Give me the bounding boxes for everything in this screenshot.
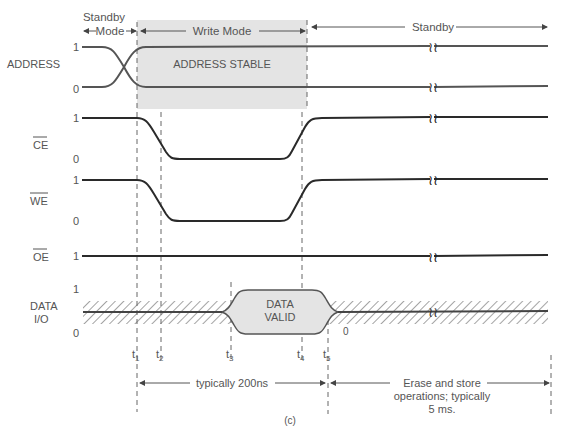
address-stable-label: ADDRESS STABLE <box>173 58 271 70</box>
t5-label: t5 <box>323 348 331 363</box>
address-level-0: 0 <box>73 83 79 95</box>
break-icon: ≀≀ <box>428 249 438 265</box>
t2-label: t2 <box>156 348 164 363</box>
break-icon: ≀≀ <box>428 110 438 126</box>
store-interval-label-2: operations; typically <box>394 390 491 402</box>
oe-label: OE <box>33 251 49 263</box>
break-icon: ≀≀ <box>428 172 438 188</box>
write-mode-label: Write Mode <box>193 25 252 37</box>
signal-we: WE 1 0 ≀≀ <box>30 172 548 227</box>
break-icon: ≀≀ <box>428 79 438 95</box>
t4-label: t4 <box>297 348 305 363</box>
data-label-2: I/O <box>34 313 49 325</box>
interval-annotations: typically 200ns Erase and store operatio… <box>140 377 549 415</box>
address-label: ADDRESS <box>7 58 60 70</box>
data-valid-label-2: VALID <box>265 311 296 323</box>
signal-oe: OE 1 ≀≀ <box>33 249 548 265</box>
figure-caption: (c) <box>284 415 296 426</box>
ce-level-1: 1 <box>73 112 79 124</box>
break-icon: ≀≀ <box>428 39 438 55</box>
store-interval-label-1: Erase and store <box>403 377 481 389</box>
timing-diagram: Standby Mode Write Mode Standby ADDRESS … <box>0 0 576 440</box>
time-marker-labels: t1 t2 t3 t4 t5 <box>132 348 331 363</box>
data-label-1: DATA <box>30 300 58 312</box>
we-label: WE <box>30 195 48 207</box>
data-level-1: 1 <box>73 283 79 295</box>
store-interval-label-3: 5 ms. <box>429 403 456 415</box>
oe-level-1: 1 <box>73 250 79 262</box>
write-interval-label: typically 200ns <box>196 377 269 389</box>
data-tail-level: 0 <box>343 326 349 337</box>
ce-label: CE <box>33 139 48 151</box>
standby-mode-label-1: Standby <box>83 11 125 23</box>
ce-level-0: 0 <box>73 153 79 165</box>
t3-label: t3 <box>226 348 234 363</box>
standby-right-label: Standby <box>412 21 454 33</box>
data-valid-label-1: DATA <box>266 298 294 310</box>
signal-ce: CE 1 0 ≀≀ <box>33 110 548 165</box>
data-level-0: 0 <box>73 327 79 339</box>
we-level-1: 1 <box>73 174 79 186</box>
signal-data-io: DATA I/O 1 0 DATA VALID 0 ≀≀ <box>30 283 548 339</box>
we-level-0: 0 <box>73 215 79 227</box>
standby-mode-label-2: Mode <box>96 25 125 37</box>
address-level-1: 1 <box>73 41 79 53</box>
break-icon: ≀≀ <box>428 304 438 320</box>
t1-label: t1 <box>132 348 140 363</box>
